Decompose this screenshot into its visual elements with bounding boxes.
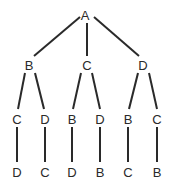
tree-node-d: D [12,165,21,180]
tree-edge [73,73,81,109]
tree-diagram: ABCDCDBDBCDCDBCB [0,0,180,187]
tree-node-a: A [81,8,90,23]
tree-edge [94,17,139,56]
tree-node-d: D [40,112,49,127]
tree-edge [129,73,138,109]
tree-node-d: D [95,112,104,127]
tree-edges [17,17,157,162]
tree-edge [35,73,44,109]
tree-edge [34,17,80,56]
tree-edge [92,73,100,109]
tree-node-c: C [82,58,91,73]
tree-node-b: B [25,58,34,73]
tree-node-c: C [12,112,21,127]
tree-node-d: D [67,165,76,180]
tree-node-c: C [40,165,49,180]
tree-node-b: B [153,165,162,180]
tree-node-b: B [68,112,77,127]
tree-node-c: C [123,165,132,180]
tree-edge [18,73,25,109]
tree-edge [149,73,157,109]
tree-node-b: B [124,112,133,127]
tree-node-b: B [96,165,105,180]
tree-node-c: C [152,112,161,127]
tree-node-d: D [138,58,147,73]
